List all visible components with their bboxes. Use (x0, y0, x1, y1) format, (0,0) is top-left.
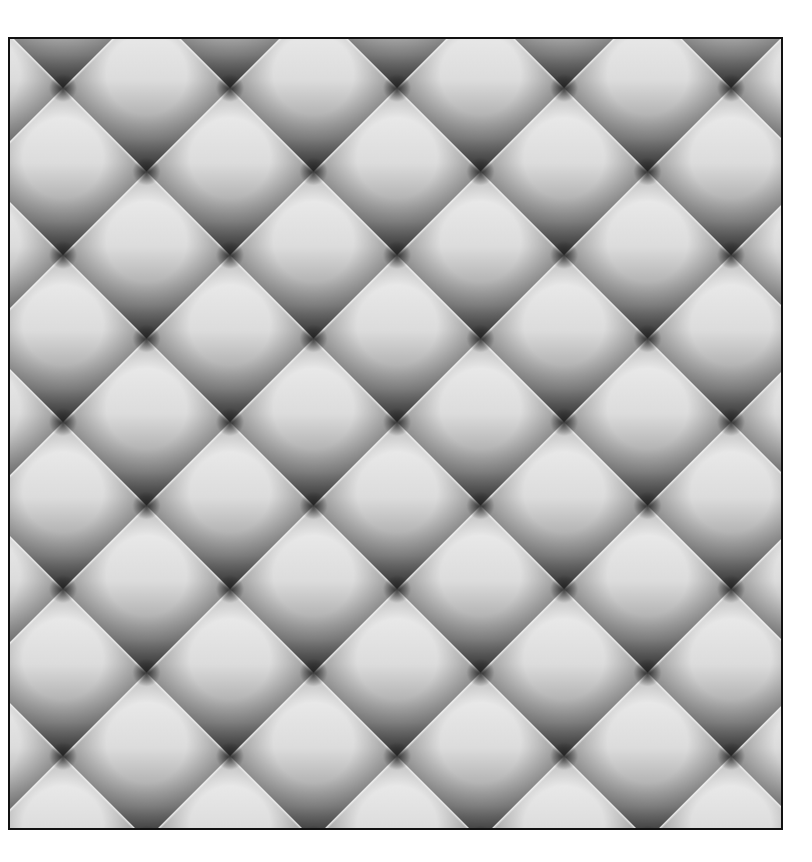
quilted-texture-frame (8, 37, 783, 830)
quilted-diamond-pattern (8, 37, 783, 830)
